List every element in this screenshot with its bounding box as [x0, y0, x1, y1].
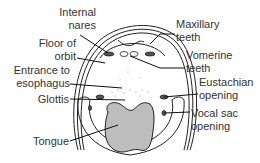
eustachian-left	[96, 95, 104, 99]
internal-naris-left	[104, 52, 114, 56]
label-eustachian-opening: Eustachian opening	[199, 76, 253, 102]
palate-features	[89, 52, 169, 116]
esophagus-stipple	[111, 72, 148, 97]
label-vocal-sac-opening: Vocal sac opening	[191, 107, 238, 133]
vocal-sac-left	[89, 106, 92, 111]
label-glottis: Glottis	[20, 93, 69, 106]
label-floor-of-orbit: Floor of orbit	[20, 37, 76, 63]
label-entrance-to-esophagus: Entrance to esophagus	[4, 64, 70, 90]
internal-naris-right	[145, 52, 155, 56]
label-internal-nares: Internal nares	[40, 6, 96, 32]
label-maxillary-teeth: Maxillary teeth	[176, 18, 219, 44]
frog-mouth-diagram: Internal nares Floor of orbit Entrance t…	[0, 0, 260, 163]
label-vomerine-teeth: Vomerine teeth	[186, 49, 232, 75]
label-tongue: Tongue	[20, 135, 69, 148]
